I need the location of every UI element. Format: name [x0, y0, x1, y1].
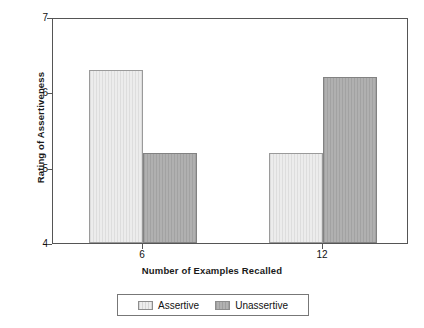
- y-axis-title: Rating of Assertiveness: [35, 28, 46, 228]
- legend-item-assertive: Assertive: [138, 300, 199, 311]
- y-axis-tick-label: 6: [28, 88, 48, 98]
- x-axis-tick-label: 12: [302, 250, 342, 260]
- y-axis-tick-mark: [47, 244, 52, 245]
- bar-chart-figure: Rating of Assertiveness 4567 612 Number …: [0, 0, 424, 328]
- y-axis-tick-label: 7: [28, 13, 48, 23]
- bar-unassertive-12: [323, 77, 377, 243]
- bar-assertive-12: [269, 153, 323, 243]
- legend-label-assertive: Assertive: [158, 300, 199, 311]
- x-axis-tick-label: 6: [122, 250, 162, 260]
- plot-area: [52, 18, 408, 244]
- chart-legend: Assertive Unassertive: [117, 294, 309, 316]
- y-axis-tick-label: 4: [28, 239, 48, 249]
- legend-item-unassertive: Unassertive: [215, 300, 288, 311]
- bar-unassertive-6: [143, 153, 197, 243]
- legend-swatch-assertive-icon: [138, 301, 153, 310]
- x-axis-tick-mark: [142, 244, 143, 249]
- legend-swatch-unassertive-icon: [215, 301, 230, 310]
- y-axis-tick-label: 5: [28, 164, 48, 174]
- x-axis-title: Number of Examples Recalled: [0, 265, 424, 276]
- bar-assertive-6: [89, 70, 143, 243]
- x-axis-tick-mark: [322, 244, 323, 249]
- legend-label-unassertive: Unassertive: [235, 300, 288, 311]
